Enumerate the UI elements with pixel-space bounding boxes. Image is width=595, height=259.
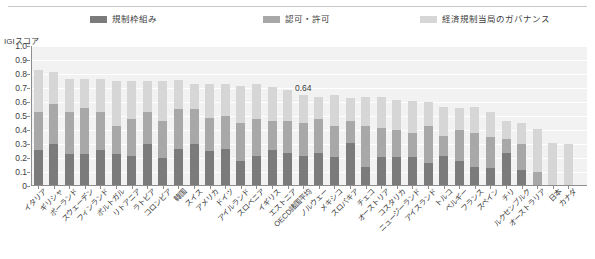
bar-segment [283, 121, 292, 153]
bar-segment [252, 156, 261, 185]
bar-segment [299, 123, 308, 155]
bar-stack [174, 80, 183, 185]
bar-segment [439, 156, 448, 185]
legend-label-regulatory-framework: 規制枠組み [112, 14, 157, 24]
legend-item-licensing-permits: 認可・許可 [263, 14, 330, 24]
bar-stack [283, 90, 292, 185]
bar-segment [174, 80, 183, 109]
y-axis-tick-mark [27, 186, 30, 187]
legend-swatch-regulator-governance [420, 16, 437, 23]
bar-segment [424, 126, 433, 162]
bar-segment [158, 121, 167, 159]
legend-item-regulatory-framework: 規制枠組み [90, 14, 157, 24]
bar-segment [143, 144, 152, 185]
gridline [31, 60, 587, 61]
bar-segment [80, 79, 89, 108]
bar-segment [65, 79, 74, 113]
bar-segment [252, 119, 261, 155]
gridline [31, 46, 587, 47]
bar-segment [517, 123, 526, 144]
y-axis-tick-labels: 1.00.90.80.70.60.50.40.30.20.10 [2, 46, 27, 186]
bar-segment [455, 161, 464, 185]
bar-stack [236, 86, 245, 185]
bar-segment [283, 153, 292, 185]
bar-stack [392, 100, 401, 185]
bar-stack [268, 87, 277, 185]
bar-segment [439, 107, 448, 136]
bar-stack [424, 102, 433, 185]
bar-segment [299, 156, 308, 185]
bar-segment [34, 150, 43, 185]
bar-segment [49, 144, 58, 185]
bar-segment [377, 97, 386, 128]
y-axis-tick-label: 0.2 [15, 154, 27, 162]
y-axis-tick-mark [27, 102, 30, 103]
y-axis-line [31, 46, 32, 186]
bar-segment [564, 144, 573, 185]
bar-segment [127, 156, 136, 185]
bar-segment [190, 144, 199, 185]
bar-segment [424, 163, 433, 185]
bar-segment [470, 133, 479, 167]
bar-segment [424, 102, 433, 126]
bar-segment [314, 97, 323, 119]
bar-segment [314, 153, 323, 185]
bar-segment [502, 139, 511, 153]
bar-segment [34, 70, 43, 112]
bar-segment [205, 84, 214, 118]
bar-segment [346, 143, 355, 185]
y-axis-tick-mark [27, 172, 30, 173]
bar-segment [236, 123, 245, 161]
bar-stack [299, 95, 308, 185]
y-axis-tick-mark [27, 116, 30, 117]
y-axis-tick-label: 0.1 [15, 168, 27, 176]
bar-segment [486, 112, 495, 137]
bar-segment [502, 121, 511, 139]
bar-stack [408, 101, 417, 185]
bar-segment [299, 95, 308, 123]
bar-segment [314, 119, 323, 153]
bar-stack [470, 107, 479, 185]
bar-segment [502, 153, 511, 185]
legend-item-regulator-governance: 経済規制当局のガバナンス [420, 14, 550, 24]
bar-segment [392, 130, 401, 157]
y-axis-tick-label: 0.6 [15, 98, 27, 106]
bar-stack [377, 97, 386, 185]
bar-segment [548, 143, 557, 185]
bar-stack [143, 81, 152, 185]
legend-swatch-licensing-permits [263, 16, 280, 23]
bar-segment [236, 86, 245, 124]
bar-segment [143, 81, 152, 112]
bar-stack [112, 81, 121, 185]
x-axis-category-labels: イタリアギリシャポーランドスウェーデンフィンランドポルトガルリトアニアラトビアコ… [31, 188, 595, 259]
bar-stack [502, 121, 511, 185]
bar-segment [268, 150, 277, 185]
bar-segment [65, 154, 74, 185]
bar-segment [408, 101, 417, 133]
legend-label-regulator-governance: 経済規制当局のガバナンス [442, 14, 550, 24]
bar-stack [486, 112, 495, 185]
y-axis-tick-mark [27, 74, 30, 75]
bar-segment [361, 97, 370, 126]
bar-segment [205, 118, 214, 152]
bar-segment [190, 84, 199, 109]
bar-segment [283, 90, 292, 121]
bar-stack [127, 81, 136, 185]
bar-segment [221, 84, 230, 116]
y-axis-tick-label: 0.8 [15, 70, 27, 78]
bar-stack [190, 84, 199, 185]
bar-segment [392, 100, 401, 131]
bar-segment [268, 121, 277, 150]
y-axis-tick-mark [27, 88, 30, 89]
bar-stack [330, 95, 339, 185]
y-axis-tick-label: 0.7 [15, 84, 27, 92]
bar-segment [486, 137, 495, 168]
bar-segment [252, 84, 261, 119]
y-axis-tick-mark [27, 144, 30, 145]
bar-segment [112, 154, 121, 185]
bar-stack [34, 70, 43, 185]
bar-segment [361, 126, 370, 167]
bar-segment [112, 126, 121, 154]
bar-segment [205, 151, 214, 185]
y-axis-tick-label: 0.5 [15, 112, 27, 120]
